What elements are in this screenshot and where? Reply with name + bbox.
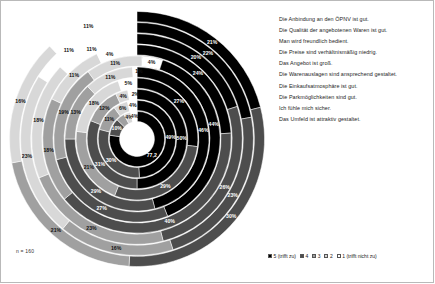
statement-item: Die Warenauslagen sind ansprechend gesta…: [279, 69, 431, 80]
legend-swatch-icon: [312, 254, 316, 258]
statement-item: Die Preise sind verhältnismäßig niedrig.: [279, 47, 431, 58]
scale-legend: 5 (trifft zu)4321 (trifft nicht zu): [268, 253, 377, 259]
segment-r5-cat1: [132, 67, 137, 77]
statement-item: Die Qualität der angebotenen Waren ist g…: [279, 25, 431, 36]
legend-label: 2: [330, 253, 333, 259]
legend-item-1: 1 (trifft nicht zu): [337, 253, 377, 259]
center-hole: [120, 122, 154, 156]
statement-item: Das Angebot ist groß.: [279, 58, 431, 69]
legend-item-3: 3: [312, 253, 320, 259]
legend-label: 1 (trifft nicht zu): [342, 253, 376, 259]
segment-r4-cat1: [118, 78, 137, 91]
statement-item: Die Anbindung an den ÖPNV ist gut.: [279, 14, 431, 25]
legend-swatch-icon: [300, 254, 304, 258]
legend-label: 3: [318, 253, 321, 259]
legend-swatch-icon: [337, 254, 341, 258]
radial-likert-chart: 77,210%4%4%49%30%11%6%4%50%31%12%4%27%29…: [0, 0, 435, 284]
legend-item-5: 5 (trifft zu): [268, 253, 296, 259]
legend-label: 5 (trifft zu): [274, 253, 296, 259]
statement-item: Das Umfeld ist attraktiv gestaltet.: [279, 114, 431, 125]
legend-swatch-icon: [324, 254, 328, 258]
statement-item: Die Parkmöglichkeiten sind gut.: [279, 92, 431, 103]
sample-size-caption: n = 160: [16, 248, 34, 254]
legend-swatch-icon: [268, 254, 272, 258]
statement-item: Die Einkaufsatmosphäre ist gut.: [279, 81, 431, 92]
statement-item: Man wird freundlich bedient.: [279, 36, 431, 47]
statement-item: Ich fühle mich sicher.: [279, 103, 431, 114]
legend-item-2: 2: [324, 253, 332, 259]
statement-legend: Die Anbindung an den ÖPNV ist gut.Die Qu…: [279, 14, 431, 125]
legend-label: 4: [305, 253, 308, 259]
legend-item-4: 4: [300, 253, 308, 259]
